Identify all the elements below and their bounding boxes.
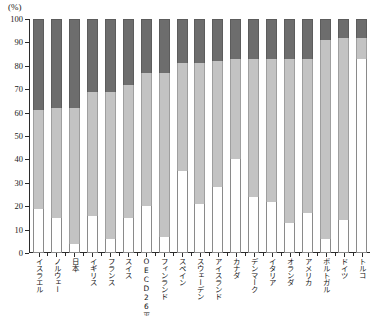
- y-axis-tick: [25, 230, 29, 231]
- bar-slot: [141, 19, 152, 253]
- x-axis-label-slot: アメリカ: [302, 257, 313, 313]
- bar-segment-top: [266, 19, 277, 59]
- bar-segment-top: [320, 19, 331, 40]
- bar-slot: [51, 19, 62, 253]
- x-axis-label-slot: 日本: [69, 257, 80, 313]
- x-axis-label-slot: スペイン: [177, 257, 188, 313]
- x-axis-category-label: トルコ: [358, 257, 366, 313]
- x-axis-label-slot: フランス: [105, 257, 116, 313]
- stacked-bar[interactable]: [105, 19, 116, 253]
- y-axis-tick-label: 20: [0, 202, 23, 210]
- bar-segment-top: [51, 19, 62, 108]
- bar-segment-bottom: [51, 218, 62, 253]
- bar-segment-bottom: [141, 206, 152, 253]
- bar-segment-middle: [248, 59, 259, 197]
- x-axis-tick-minor: [191, 253, 192, 256]
- bar-segment-middle: [33, 110, 44, 208]
- x-axis-category-label: ポルトガル: [322, 257, 330, 313]
- stacked-bar[interactable]: [248, 19, 259, 253]
- bar-segment-middle: [87, 92, 98, 216]
- x-axis-tick-minor: [83, 253, 84, 256]
- y-axis-tick: [25, 136, 29, 137]
- y-axis-tick-label: 0: [0, 249, 23, 257]
- bar-segment-bottom: [212, 187, 223, 253]
- stacked-bar[interactable]: [320, 19, 331, 253]
- x-axis-label-slot: イタリア: [266, 257, 277, 313]
- bar-slot: [177, 19, 188, 253]
- bar-segment-top: [248, 19, 259, 59]
- bar-segment-middle: [230, 59, 241, 160]
- bar-segment-bottom: [356, 59, 367, 253]
- stacked-bar[interactable]: [302, 19, 313, 253]
- x-axis-tick-minor: [317, 253, 318, 256]
- x-axis-category-label: 日本: [71, 257, 79, 313]
- bar-segment-bottom: [320, 239, 331, 253]
- x-axis-tick-minor: [47, 253, 48, 256]
- x-axis-tick-minor: [155, 253, 156, 256]
- y-axis-tick: [25, 183, 29, 184]
- y-axis-tick: [25, 159, 29, 160]
- x-axis-label-slot: オランダ: [284, 257, 295, 313]
- stacked-bar[interactable]: [356, 19, 367, 253]
- bar-slot: [194, 19, 205, 253]
- bar-segment-bottom: [159, 237, 170, 253]
- stacked-bar[interactable]: [87, 19, 98, 253]
- bar-segment-bottom: [194, 204, 205, 253]
- x-axis-category-label: スイス: [124, 257, 132, 313]
- bar-segment-top: [302, 19, 313, 59]
- x-axis-category-label: アメリカ: [304, 257, 312, 313]
- stacked-bar[interactable]: [51, 19, 62, 253]
- stacked-bar[interactable]: [159, 19, 170, 253]
- stacked-bar[interactable]: [194, 19, 205, 253]
- bar-slot: [123, 19, 134, 253]
- stacked-bar[interactable]: [266, 19, 277, 253]
- stacked-bar[interactable]: [33, 19, 44, 253]
- x-axis-tick-minor: [245, 253, 246, 256]
- bar-segment-bottom: [338, 220, 349, 253]
- x-axis-labels: イスラエルノルウェー日本イギリスフランススイスOECD26平均フィンランドスペイ…: [29, 257, 370, 313]
- x-axis-category-label: イギリス: [89, 257, 97, 313]
- stacked-bar[interactable]: [123, 19, 134, 253]
- x-axis-category-label: フィンランド: [160, 257, 168, 313]
- stacked-bar[interactable]: [212, 19, 223, 253]
- bar-segment-bottom: [177, 171, 188, 253]
- bar-segment-middle: [302, 59, 313, 213]
- bar-segment-middle: [177, 63, 188, 171]
- y-axis-unit-label: (%): [8, 2, 22, 12]
- bar-segment-middle: [123, 85, 134, 218]
- bar-segment-middle: [51, 108, 62, 218]
- bar-slot: [356, 19, 367, 253]
- bar-segment-middle: [159, 73, 170, 237]
- bar-slot: [320, 19, 331, 253]
- bar-segment-middle: [141, 73, 152, 206]
- stacked-bar[interactable]: [141, 19, 152, 253]
- bar-segment-middle: [338, 38, 349, 221]
- bar-segment-middle: [212, 61, 223, 187]
- y-axis-tick-label: 90: [0, 38, 23, 46]
- bar-segment-bottom: [266, 202, 277, 253]
- bar-segment-middle: [194, 63, 205, 203]
- bar-segment-bottom: [105, 239, 116, 253]
- bar-slot: [159, 19, 170, 253]
- x-axis-label-slot: イスラエル: [33, 257, 44, 313]
- x-axis-tick-minor: [119, 253, 120, 256]
- bar-segment-bottom: [33, 209, 44, 253]
- y-axis-tick-label: 40: [0, 155, 23, 163]
- x-axis-category-label: カナダ: [232, 257, 240, 313]
- x-axis-label-slot: イギリス: [87, 257, 98, 313]
- stacked-bar[interactable]: [338, 19, 349, 253]
- stacked-bar[interactable]: [69, 19, 80, 253]
- y-axis-tick: [25, 42, 29, 43]
- bar-segment-middle: [284, 59, 295, 223]
- bar-segment-middle: [356, 38, 367, 59]
- x-axis-category-label: スペイン: [178, 257, 186, 313]
- x-axis-category-label: スウェーデン: [196, 257, 204, 313]
- bar-segment-top: [338, 19, 349, 38]
- stacked-bar[interactable]: [230, 19, 241, 253]
- bar-slot: [69, 19, 80, 253]
- x-axis-category-label: フランス: [106, 257, 114, 313]
- y-axis-tick-label: 10: [0, 226, 23, 234]
- stacked-bar[interactable]: [177, 19, 188, 253]
- stacked-bar[interactable]: [284, 19, 295, 253]
- x-axis-tick-minor: [209, 253, 210, 256]
